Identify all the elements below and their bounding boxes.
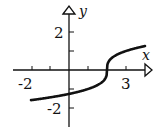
x-tick-label-neg2: -2 bbox=[18, 75, 33, 93]
y-tick-label-neg2: -2 bbox=[47, 100, 62, 118]
x-axis-arrow-icon bbox=[145, 64, 152, 76]
chart: -2 3 2 -2 y x bbox=[0, 0, 158, 130]
x-axis-label: x bbox=[142, 47, 150, 63]
x-tick-label-3: 3 bbox=[121, 75, 131, 93]
y-axis-label: y bbox=[78, 3, 88, 19]
y-axis-arrow-icon bbox=[63, 6, 75, 14]
y-tick-label-2: 2 bbox=[54, 24, 64, 42]
